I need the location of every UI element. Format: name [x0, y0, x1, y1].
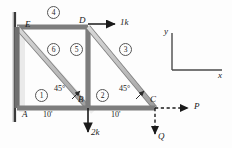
dimension-label-AB: 10'	[43, 111, 52, 119]
load-label-2k: 2k	[91, 128, 100, 137]
load-label-1k: 1k	[120, 18, 129, 27]
member-number-3: 3	[119, 43, 132, 56]
figure-canvas: E D A B C 4 6 5 3 1 2 45° 45° 10' 10' 1k…	[0, 0, 232, 148]
node-label-A: A	[22, 110, 28, 119]
member-number-2: 2	[96, 89, 109, 102]
axis-label-x: x	[218, 71, 222, 80]
angle-label-C: 45°	[119, 85, 130, 93]
load-label-Q: Q	[158, 132, 165, 141]
axis-label-y: y	[164, 27, 168, 36]
member-number-4: 4	[47, 6, 60, 19]
member-number-6: 6	[47, 43, 60, 56]
node-label-D: D	[79, 16, 86, 25]
node-label-C: C	[150, 95, 156, 104]
load-arrows	[88, 24, 188, 134]
node-label-B: B	[78, 95, 84, 104]
node-label-E: E	[25, 20, 31, 29]
angle-label-B: 45°	[54, 85, 65, 93]
dimension-label-BC: 10'	[111, 111, 120, 119]
member-number-1: 1	[35, 89, 48, 102]
coordinate-axes	[172, 33, 222, 70]
load-label-P: P	[194, 102, 200, 111]
truss-diagram-svg	[0, 0, 232, 148]
member-number-5: 5	[70, 43, 83, 56]
